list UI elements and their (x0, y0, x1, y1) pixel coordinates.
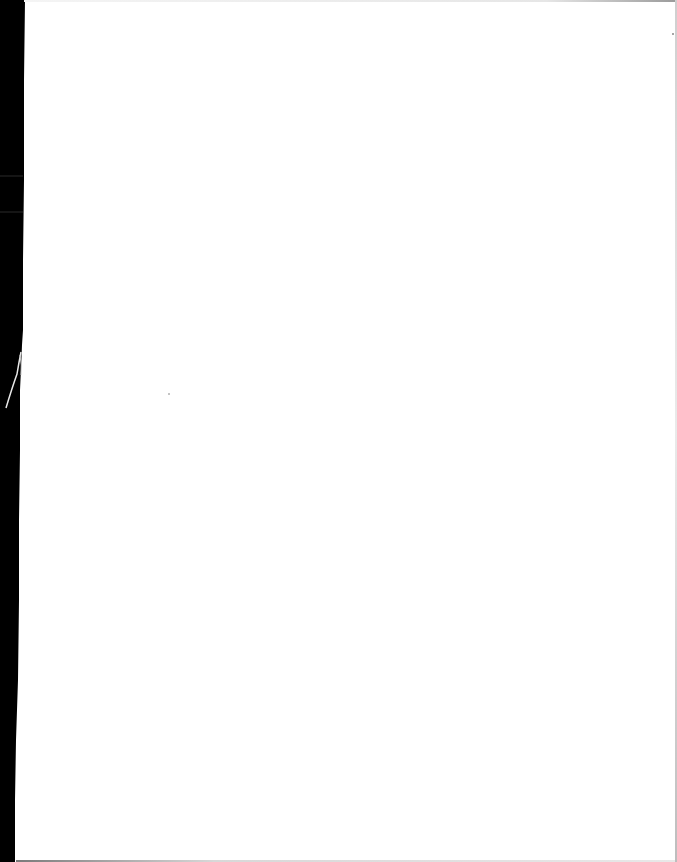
scan-border-edge (0, 0, 30, 862)
page-top-edge (24, 0, 677, 2)
scanned-page (0, 0, 677, 862)
page-content (40, 40, 637, 822)
dust-speck (672, 33, 674, 35)
